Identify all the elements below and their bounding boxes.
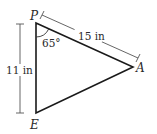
angle-label: 65° xyxy=(42,37,61,49)
side-PE-label: 11 in xyxy=(6,64,33,76)
side-PA-label: 15 in xyxy=(78,30,105,42)
angle-arc xyxy=(36,29,49,37)
dimension-tick-P xyxy=(40,11,44,19)
vertex-label-E: E xyxy=(29,118,39,132)
triangle-diagram: P A E 65° 15 in 11 in xyxy=(0,0,157,134)
vertex-label-P: P xyxy=(29,9,39,23)
vertex-label-A: A xyxy=(135,61,145,75)
